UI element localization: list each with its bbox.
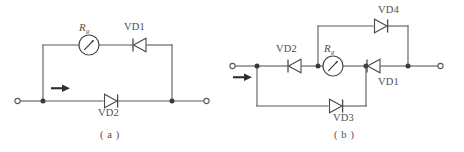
caption-a: ( a ) — [100, 130, 120, 141]
circuit-a — [15, 35, 209, 108]
diode-b-vd3 — [330, 99, 343, 113]
diode-a-vd1 — [133, 38, 146, 52]
terminal-b-right[interactable] — [438, 63, 443, 68]
diode-b-vd4 — [375, 19, 388, 33]
terminal-b-left[interactable] — [230, 63, 235, 68]
label-a-meter: Rg — [79, 22, 90, 33]
label-b-vd3: VD3 — [333, 113, 354, 124]
node-b-right — [406, 64, 411, 69]
label-b-meter: Rg — [324, 43, 335, 54]
node-b-meter-left — [316, 64, 321, 69]
label-b-vd1: VD1 — [378, 77, 399, 88]
label-b-vd4: VD4 — [378, 5, 399, 16]
terminal-a-left[interactable] — [15, 98, 20, 103]
diode-b-vd1 — [367, 59, 380, 73]
label-a-vd1: VD1 — [124, 22, 145, 33]
node-a-left — [41, 99, 46, 104]
node-a-right — [170, 99, 175, 104]
circuit-b — [230, 19, 443, 113]
diode-b-vd2 — [288, 59, 301, 73]
circuit-figure: Rg VD1 VD2 ( a ) VD2 Rg VD4 VD1 VD3 ( b … — [0, 0, 464, 152]
caption-b: ( b ) — [334, 130, 355, 141]
galvanometer-a — [79, 35, 99, 55]
diode-a-vd2 — [105, 94, 118, 108]
current-arrow-b — [233, 74, 252, 81]
label-a-vd2: VD2 — [98, 108, 119, 119]
galvanometer-b — [323, 56, 343, 76]
label-b-vd2: VD2 — [276, 44, 297, 55]
terminal-a-right[interactable] — [204, 98, 209, 103]
current-arrow-a — [51, 85, 70, 92]
node-b-left — [255, 64, 260, 69]
